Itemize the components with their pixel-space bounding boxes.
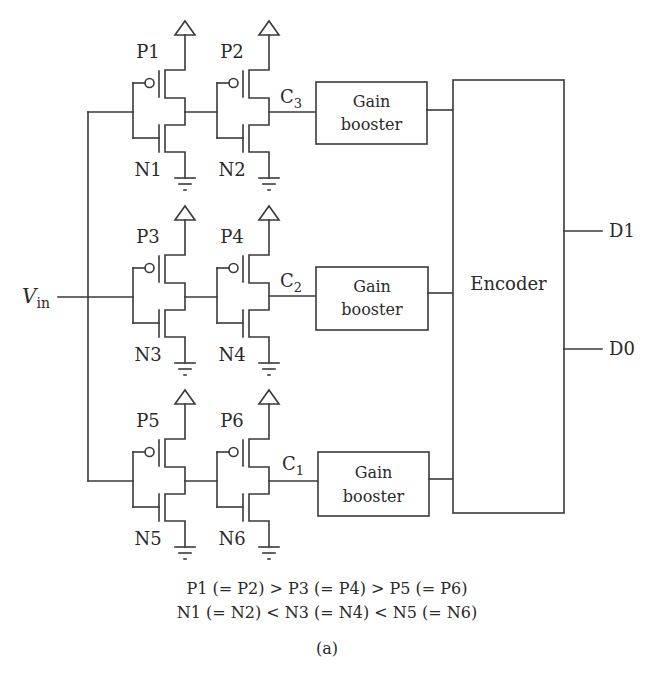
pmos-label: P2 bbox=[220, 41, 244, 62]
pmos-bubble-icon bbox=[229, 79, 238, 88]
svg-text:booster: booster bbox=[343, 487, 405, 506]
ground-icon bbox=[259, 363, 279, 375]
output-d1-label: D1 bbox=[609, 220, 635, 241]
gain-booster: Gain booster bbox=[316, 82, 427, 144]
encoder-label: Encoder bbox=[470, 273, 547, 294]
vdd-icon bbox=[259, 390, 279, 404]
inverter-stage-2: P6 N6 bbox=[217, 390, 279, 559]
ground-icon bbox=[175, 363, 195, 375]
caption-nmos-sizing: N1 (= N2) < N3 (= N4) < N5 (= N6) bbox=[0, 603, 654, 622]
pmos-bubble-icon bbox=[145, 79, 154, 88]
nmos-label: N2 bbox=[218, 159, 245, 180]
inverter-stage-1: P5 N5 bbox=[133, 390, 195, 559]
inverter-stage-2: P4 N4 bbox=[217, 206, 279, 375]
nmos-label: N5 bbox=[134, 528, 161, 549]
comparator-output-label: C1 bbox=[282, 453, 304, 478]
inverter-stage-1: P1 N1 bbox=[133, 21, 195, 190]
gain-booster: Gain booster bbox=[318, 452, 429, 516]
pmos-bubble-icon bbox=[229, 264, 238, 273]
vdd-icon bbox=[175, 390, 195, 404]
comparator-row-2: P3 N3 P4 N4 C2 Gain booster bbox=[133, 206, 453, 375]
pmos-channel bbox=[249, 35, 269, 178]
gain-booster: Gain booster bbox=[316, 267, 428, 330]
vin-label: Vin bbox=[22, 284, 50, 311]
nmos-label: N6 bbox=[218, 528, 245, 549]
vdd-icon bbox=[259, 21, 279, 35]
comparator-output-label: C2 bbox=[280, 270, 302, 295]
vdd-icon bbox=[175, 206, 195, 220]
ground-icon bbox=[259, 178, 279, 190]
output-d0-label: D0 bbox=[609, 338, 635, 359]
pmos-channel bbox=[165, 404, 185, 547]
pmos-label: P6 bbox=[220, 410, 244, 431]
inverter-stage-1: P3 N3 bbox=[133, 206, 195, 375]
svg-text:booster: booster bbox=[341, 300, 403, 319]
encoder-block: Encoder bbox=[453, 80, 564, 513]
nmos-label: N1 bbox=[134, 159, 161, 180]
svg-text:Gain: Gain bbox=[353, 92, 391, 111]
svg-text:booster: booster bbox=[341, 115, 403, 134]
nmos-label: N3 bbox=[134, 344, 161, 365]
ground-icon bbox=[175, 178, 195, 190]
inverter-stage-2: P2 N2 bbox=[217, 21, 279, 190]
vdd-icon bbox=[175, 21, 195, 35]
pmos-channel bbox=[249, 404, 269, 547]
pmos-label: P1 bbox=[136, 41, 160, 62]
comparator-row-1: P1 N1 P2 N2 C3 Gain booster bbox=[133, 21, 453, 190]
vin-input: Vin bbox=[22, 112, 133, 481]
pmos-channel bbox=[165, 220, 185, 363]
pmos-bubble-icon bbox=[145, 448, 154, 457]
output-d1: D1 bbox=[564, 220, 635, 241]
pmos-bubble-icon bbox=[229, 448, 238, 457]
svg-text:Gain: Gain bbox=[355, 463, 393, 482]
comparator-output-label: C3 bbox=[280, 86, 302, 111]
comparator-row-3: P5 N5 P6 N6 C1 Gain booster bbox=[133, 390, 455, 559]
output-d0: D0 bbox=[564, 338, 635, 359]
pmos-channel bbox=[249, 220, 269, 363]
pmos-label: P3 bbox=[136, 226, 160, 247]
svg-text:Gain: Gain bbox=[353, 277, 391, 296]
figure-sublabel: (a) bbox=[0, 639, 654, 658]
ground-icon bbox=[175, 547, 195, 559]
pmos-bubble-icon bbox=[145, 264, 154, 273]
vdd-icon bbox=[259, 206, 279, 220]
pmos-channel bbox=[165, 35, 185, 178]
nmos-label: N4 bbox=[218, 344, 245, 365]
pmos-label: P5 bbox=[136, 410, 160, 431]
pmos-label: P4 bbox=[220, 226, 244, 247]
ground-icon bbox=[259, 547, 279, 559]
caption-pmos-sizing: P1 (= P2) > P3 (= P4) > P5 (= P6) bbox=[0, 579, 654, 598]
